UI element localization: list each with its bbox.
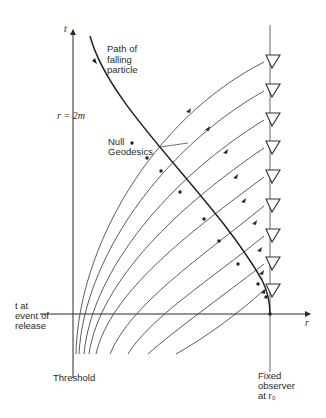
svg-text:release: release <box>15 320 46 331</box>
svg-text:particle: particle <box>107 64 138 75</box>
r-axis-label: r <box>305 317 309 328</box>
observer-triangle-icon <box>266 84 280 97</box>
r-axis: r <box>40 314 310 328</box>
observer-label: Fixed observer at r₀ <box>258 370 295 401</box>
observer-triangle-icon <box>266 55 280 68</box>
null-geodesics <box>76 62 264 354</box>
spacetime-diagram: t r r = 2m <box>0 0 326 418</box>
svg-text:Geodesics: Geodesics <box>108 146 153 157</box>
t-axis-label: t <box>64 23 67 34</box>
threshold-label: Threshold <box>53 372 95 383</box>
observer-triangle-icon <box>266 170 280 183</box>
release-event-label: t at event of release <box>15 300 49 331</box>
observer-triangle-icon <box>266 199 280 212</box>
observer-triangle-icon <box>266 141 280 154</box>
particle-path-label: Path of falling particle <box>107 43 138 75</box>
observer-triangle-icon <box>266 257 280 270</box>
t-axis: t <box>64 23 73 378</box>
observer-triangle-icon <box>266 229 280 242</box>
svg-text:Path of: Path of <box>107 43 137 54</box>
horizon-label: r = 2m <box>57 110 85 121</box>
observer-triangle-icon <box>266 113 280 126</box>
null-geodesics-label: Null Geodesics <box>108 136 153 157</box>
falling-particle-path <box>90 36 270 314</box>
svg-text:at r₀: at r₀ <box>258 390 276 401</box>
observer-markers <box>266 55 280 297</box>
null-geodesics-pointer <box>160 143 188 147</box>
